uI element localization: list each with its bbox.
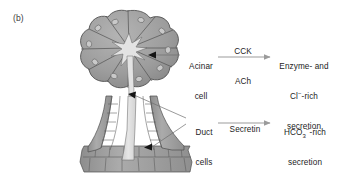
- acinar-secretion-line1: Enzyme- and: [269, 62, 339, 72]
- bicarbonate-subscript: 3: [303, 133, 306, 139]
- acinar-cell-label-line1: Acinar: [181, 62, 221, 72]
- panel-letter: (b): [13, 13, 24, 23]
- duct-cells-label: Duct cells: [188, 108, 220, 175]
- chloride-symbol: Cl: [290, 92, 298, 101]
- duct-secretion-label: HCO3−-rich secretion: [272, 108, 338, 175]
- duct-secretion-line2: secretion: [272, 158, 338, 168]
- acinar-stimuli-label: CCK ACh: [226, 27, 260, 97]
- duct-stimulus-label: Secretin: [222, 105, 268, 145]
- stimulus-ach: ACh: [226, 77, 260, 87]
- duct-secretion-line1: HCO3−-rich: [272, 128, 338, 138]
- bicarbonate-rich-suffix: -rich: [310, 128, 326, 137]
- stimulus-secretin: Secretin: [222, 125, 268, 135]
- duct-cells-label-line1: Duct: [188, 128, 220, 138]
- duct-cells-label-line2: cells: [188, 158, 220, 168]
- acinar-secretion-line2: Cl−-rich: [269, 92, 339, 102]
- stimulus-cck: CCK: [226, 47, 260, 57]
- acinar-cell-label: Acinar cell: [181, 42, 221, 112]
- chloride-rich-suffix: -rich: [302, 92, 318, 101]
- bicarbonate-symbol: HCO: [284, 128, 303, 137]
- acinar-cell-label-line2: cell: [181, 92, 221, 102]
